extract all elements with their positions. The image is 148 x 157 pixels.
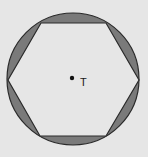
circle-hexagon-diagram: T (0, 0, 148, 157)
point-label: T (80, 76, 87, 88)
center-point (70, 76, 74, 80)
